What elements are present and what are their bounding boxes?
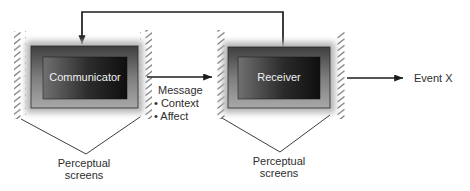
perceptual-screens-label-left-line1: Perceptual [58, 157, 111, 169]
perceptual-screen-hatch-receiver-right [337, 32, 349, 119]
perceptual-screens-label-right-line2: screens [260, 167, 299, 179]
message-title: Message [158, 84, 203, 96]
perceptual-screens-pointer-right [222, 115, 330, 152]
communication-diagram: Communicator Receiver Message • Context … [0, 0, 470, 191]
communicator-label: Communicator [49, 71, 121, 83]
perceptual-screens-pointer-left [21, 117, 140, 154]
perceptual-screen-hatch-communicator-left [14, 31, 26, 119]
message-item-context: • Context [154, 97, 199, 109]
message-item-affect: • Affect [154, 110, 188, 122]
perceptual-screens-label-left-line2: screens [65, 169, 104, 181]
diagram-canvas: Communicator Receiver Message • Context … [0, 0, 470, 191]
event-label: Event X [414, 72, 453, 84]
perceptual-screens-label-right-line1: Perceptual [253, 155, 306, 167]
receiver-label: Receiver [257, 71, 301, 83]
